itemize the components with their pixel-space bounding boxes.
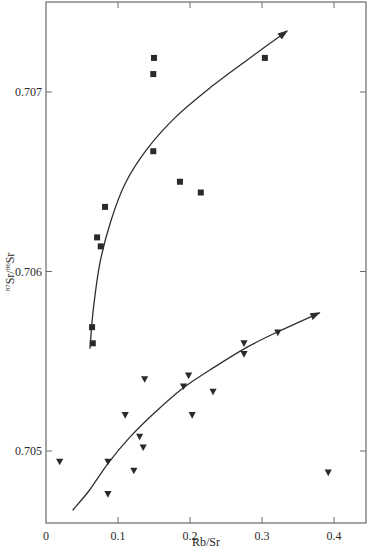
y-label-main2: Sr bbox=[3, 253, 17, 264]
scatter-chart: 00.10.20.30.40.7050.7060.707 Rb/Sr 87Sr/… bbox=[0, 0, 370, 554]
x-axis-label: Rb/Sr bbox=[192, 535, 220, 549]
triangle-data-point bbox=[325, 470, 332, 477]
triangle-data-point bbox=[122, 412, 129, 419]
triangle-data-point bbox=[56, 459, 63, 466]
y-tick-label: 0.705 bbox=[15, 444, 42, 458]
y-label-main1: Sr/ bbox=[3, 270, 17, 285]
plot-frame-group bbox=[46, 2, 366, 523]
trend-curves-group bbox=[73, 31, 320, 510]
triangle-data-point bbox=[136, 434, 143, 441]
square-data-point bbox=[262, 55, 268, 61]
square-data-point bbox=[151, 55, 157, 61]
y-tick-label: 0.707 bbox=[15, 85, 42, 99]
square-data-point bbox=[98, 243, 104, 249]
triangle-data-point bbox=[240, 340, 247, 347]
square-data-point bbox=[150, 71, 156, 77]
square-data-point bbox=[102, 204, 108, 210]
triangle-data-point bbox=[104, 459, 111, 466]
square-data-point bbox=[90, 340, 96, 346]
x-tick-label: 0.3 bbox=[255, 529, 270, 543]
triangle-data-point bbox=[189, 412, 196, 419]
triangle-series-trend-curve bbox=[73, 313, 320, 510]
y-axis-label: 87Sr/86Sr bbox=[3, 253, 17, 292]
triangle-data-point bbox=[141, 376, 148, 383]
triangle-data-point bbox=[209, 389, 216, 396]
square-series-trend-curve bbox=[90, 31, 287, 349]
square-data-point bbox=[177, 179, 183, 185]
square-data-point bbox=[89, 324, 95, 330]
triangle-data-point bbox=[185, 373, 192, 380]
x-tick-label: 0 bbox=[43, 529, 49, 543]
axis-ticks-group: 00.10.20.30.40.7050.7060.707 bbox=[15, 2, 366, 543]
square-data-point bbox=[94, 234, 100, 240]
triangle-data-point bbox=[130, 468, 137, 475]
plot-frame bbox=[46, 2, 366, 523]
square-data-point bbox=[198, 190, 204, 196]
triangle-data-point bbox=[104, 491, 111, 498]
triangle-data-point bbox=[140, 444, 147, 451]
x-tick-label: 0.4 bbox=[327, 529, 342, 543]
x-tick-label: 0.1 bbox=[111, 529, 126, 543]
square-data-point bbox=[150, 148, 156, 154]
y-tick-label: 0.706 bbox=[15, 265, 42, 279]
triangle-data-point bbox=[240, 351, 247, 358]
